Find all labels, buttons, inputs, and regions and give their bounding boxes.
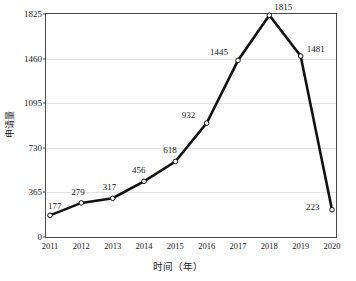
data-point-marker [298,54,303,59]
x-axis-title: 时间（年） [0,259,356,273]
plot-area: 0365730109514601825 20112012201320142015… [45,13,337,238]
data-point-marker [267,13,272,18]
x-tick-label: 2016 [198,241,215,251]
x-tick-label: 2015 [167,241,184,251]
line-chart: 申请量 0365730109514601825 2011201220132014… [0,0,356,281]
x-tick-label: 2012 [73,241,90,251]
data-point-marker [110,196,115,201]
data-point-label: 177 [48,202,62,211]
y-tick-label: 1460 [24,54,42,64]
data-point-label: 456 [132,166,146,175]
data-point-marker [236,58,241,63]
data-point-label: 1481 [307,45,325,54]
y-tick-label: 730 [29,143,43,153]
data-point-label: 1815 [274,3,292,12]
data-point-marker [173,159,178,164]
x-tick-label: 2019 [292,241,309,251]
x-tick-label: 2018 [261,241,278,251]
data-point-marker [330,207,335,212]
x-tick-label: 2013 [104,241,121,251]
x-tick-label: 2014 [136,241,153,251]
y-tick-label: 1095 [24,98,42,108]
data-point-label: 932 [182,111,196,120]
y-tick-label: 1825 [24,9,42,19]
data-point-marker [48,213,53,218]
x-tick-label: 2011 [42,241,59,251]
series-line [46,14,336,237]
y-tick-label: 365 [29,187,43,197]
data-point-marker [142,179,147,184]
data-point-label: 223 [306,203,320,212]
data-point-label: 618 [163,146,177,155]
x-tick-label: 2020 [324,241,341,251]
data-point-marker [204,121,209,126]
x-tick-label: 2017 [230,241,247,251]
data-point-label: 317 [103,183,117,192]
data-point-label: 1445 [210,48,228,57]
y-axis-title: 申请量 [3,95,16,155]
data-point-label: 279 [71,188,85,197]
data-point-marker [79,201,84,206]
